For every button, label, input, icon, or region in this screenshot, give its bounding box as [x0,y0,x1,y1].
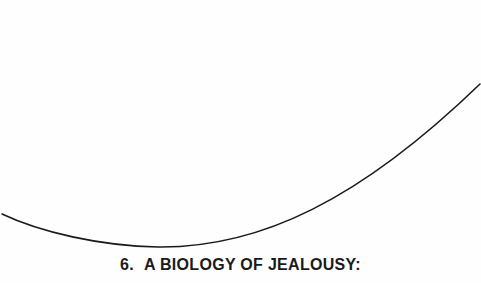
book-page: 6.A BIOLOGY OF JEALOUSY: [0,0,481,283]
chapter-heading: 6.A BIOLOGY OF JEALOUSY: [0,256,481,274]
decorative-arc [0,0,481,283]
chapter-title: A BIOLOGY OF JEALOUSY: [144,256,361,273]
chapter-number: 6. [120,256,134,273]
